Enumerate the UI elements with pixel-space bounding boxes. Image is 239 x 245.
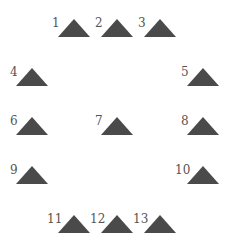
triangle-icon (16, 117, 48, 135)
triangle-icon (58, 215, 90, 233)
triangle-icon (58, 19, 90, 37)
triangle-icon (101, 215, 133, 233)
triangle-icon (101, 117, 133, 135)
triangle-icon (187, 117, 219, 135)
triangle-icon (144, 19, 176, 37)
triangle-icon (101, 19, 133, 37)
triangle-diagram: 1 2 3 4 5 6 7 8 9 10 11 12 13 (0, 0, 239, 245)
triangle-icon (16, 166, 48, 184)
triangle-icon (187, 166, 219, 184)
triangle-icon (16, 68, 48, 86)
triangle-icon (144, 215, 176, 233)
triangle-icon (187, 68, 219, 86)
